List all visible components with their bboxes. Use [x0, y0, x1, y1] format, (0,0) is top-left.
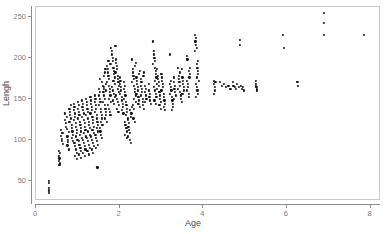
data-point [91, 129, 93, 131]
data-point [154, 89, 156, 91]
data-point [159, 98, 161, 100]
data-point [195, 86, 197, 88]
data-point [135, 76, 137, 78]
data-point [161, 80, 163, 82]
data-point [97, 143, 99, 145]
data-point [81, 106, 83, 108]
data-point [129, 132, 131, 134]
data-point [162, 106, 164, 108]
data-point [163, 99, 165, 101]
data-point [101, 137, 103, 139]
scatter-plot-figure: 02468 50100150200250 Age Lengh [0, 0, 386, 234]
data-point [75, 129, 77, 131]
data-point [70, 124, 72, 126]
data-point [186, 80, 188, 82]
y-tick-mark [28, 139, 31, 140]
data-point [73, 109, 75, 111]
data-point [92, 142, 94, 144]
data-point [160, 73, 162, 75]
data-point [115, 62, 117, 64]
data-point [231, 81, 233, 83]
data-point [111, 86, 113, 88]
data-point [182, 83, 184, 85]
data-point [195, 37, 197, 39]
data-point [119, 76, 121, 78]
data-point [162, 83, 164, 85]
data-point [363, 34, 365, 36]
data-point [81, 99, 83, 101]
data-point [153, 99, 155, 101]
data-point [83, 142, 85, 144]
y-tick-mark [28, 57, 31, 58]
data-point [95, 147, 97, 149]
data-point [156, 88, 158, 90]
data-point [178, 81, 180, 83]
data-point [134, 88, 136, 90]
data-point [98, 94, 100, 96]
y-tick-mark [28, 180, 31, 181]
data-point [78, 111, 80, 113]
data-point [135, 93, 137, 95]
data-point [132, 75, 134, 77]
data-point [111, 53, 113, 55]
data-point [158, 104, 160, 106]
data-point [188, 93, 190, 95]
y-tick-mark [28, 16, 31, 17]
data-point [109, 91, 111, 93]
data-point [128, 129, 130, 131]
data-point [124, 84, 126, 86]
data-point [122, 106, 124, 108]
data-point [157, 81, 159, 83]
data-point [78, 104, 80, 106]
data-point [154, 60, 156, 62]
data-point [138, 73, 140, 75]
data-point [115, 94, 117, 96]
data-point [94, 98, 96, 100]
data-point [172, 102, 174, 104]
data-point [75, 148, 77, 150]
data-point [124, 94, 126, 96]
data-point [128, 122, 130, 124]
data-point [124, 91, 126, 93]
data-point [109, 94, 111, 96]
data-point [109, 88, 111, 90]
data-point [68, 131, 70, 133]
data-point [74, 155, 76, 157]
data-point [77, 101, 79, 103]
data-point [88, 143, 90, 145]
data-point [91, 106, 93, 108]
data-point [162, 93, 164, 95]
data-point [123, 98, 125, 100]
data-point [198, 80, 200, 82]
data-point [77, 107, 79, 109]
data-point [108, 84, 110, 86]
data-point [113, 102, 115, 104]
data-point [101, 114, 103, 116]
data-point [164, 109, 166, 111]
data-point [143, 107, 145, 109]
data-point [187, 86, 189, 88]
data-point [254, 80, 256, 82]
data-point [94, 101, 96, 103]
data-point [153, 57, 155, 59]
data-point [89, 112, 91, 114]
data-point [117, 101, 119, 103]
plot-panel [35, 6, 380, 200]
data-point [75, 125, 77, 127]
data-point [185, 55, 187, 57]
data-point [223, 83, 225, 85]
data-point [169, 93, 171, 95]
data-point [160, 107, 162, 109]
data-point [180, 98, 182, 100]
data-point [100, 121, 102, 123]
data-point [172, 106, 174, 108]
data-point [117, 111, 119, 113]
data-point [323, 12, 325, 14]
data-point [79, 121, 81, 123]
x-tick-mark [35, 205, 36, 208]
data-point [137, 89, 139, 91]
data-point [79, 134, 81, 136]
data-point [114, 71, 116, 73]
data-point [101, 124, 103, 126]
data-point [130, 112, 132, 114]
